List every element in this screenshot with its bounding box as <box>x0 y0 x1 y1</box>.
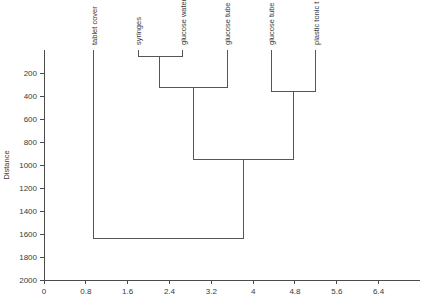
y-axis-title: Distance <box>2 150 11 179</box>
dendrogram-canvas: 200400600800100012001400160018002000 Dis… <box>0 0 426 301</box>
x-tick-label: 0.8 <box>80 287 92 296</box>
y-tick-label: 1200 <box>19 184 37 193</box>
y-tick-label: 400 <box>24 92 38 101</box>
y-tick-label: 1800 <box>19 253 37 262</box>
x-tick-label: 0 <box>42 287 47 296</box>
dendrogram-links <box>94 50 316 239</box>
leaf-label: glucose tube <box>223 2 232 45</box>
y-tick-label: 600 <box>24 115 38 124</box>
y-axis: 200400600800100012001400160018002000 Dis… <box>2 50 44 285</box>
leaf-label: syringes <box>134 17 143 45</box>
leaf-label: glucose water <box>179 0 188 45</box>
y-tick-label: 2000 <box>19 276 37 285</box>
leaf-label: tablet cover <box>90 6 99 45</box>
y-tick-label: 1000 <box>19 161 37 170</box>
x-tick-label: 4 <box>251 287 256 296</box>
x-tick-label: 5.6 <box>331 287 343 296</box>
leaf-label: glucose tube <box>267 2 276 45</box>
x-axis: 00.81.62.43.244.85.66.4 <box>42 280 420 296</box>
x-axis-ticks: 00.81.62.43.244.85.66.4 <box>42 280 385 296</box>
dendrogram-link <box>271 50 315 92</box>
x-tick-label: 2.4 <box>164 287 176 296</box>
y-tick-label: 1400 <box>19 207 37 216</box>
x-tick-label: 4.8 <box>289 287 301 296</box>
dendrogram-chart: 200400600800100012001400160018002000 Dis… <box>0 0 426 301</box>
x-tick-label: 6.4 <box>373 287 385 296</box>
x-tick-label: 1.6 <box>122 287 134 296</box>
x-tick-label: 3.2 <box>206 287 218 296</box>
leaf-label: plastic tonic t <box>312 1 321 45</box>
dendrogram-leaf-labels: tablet coversyringesglucose waterglucose… <box>90 0 321 45</box>
dendrogram-link <box>138 50 182 57</box>
dendrogram-link <box>94 50 244 239</box>
y-tick-label: 800 <box>24 138 38 147</box>
dendrogram-link <box>193 88 294 159</box>
dendrogram-link <box>159 50 227 88</box>
y-tick-label: 200 <box>24 69 38 78</box>
y-tick-label: 1600 <box>19 230 37 239</box>
y-axis-ticks: 200400600800100012001400160018002000 <box>19 69 44 285</box>
